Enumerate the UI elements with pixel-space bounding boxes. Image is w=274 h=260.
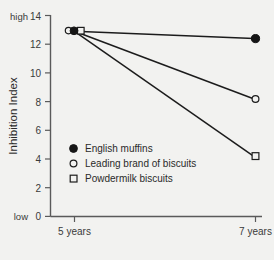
y-tick-label-4: 4: [35, 154, 41, 165]
series-line-powdermilk-biscuits: [75, 31, 254, 156]
datapoint-english-muffins-5-years: [70, 27, 78, 35]
y-tick-label-14: 14: [30, 11, 42, 22]
legend-marker-open-circle-icon: [70, 160, 77, 167]
datapoint-leading-brand-7-years: [252, 96, 259, 103]
legend-label-powdermilk-biscuits: Powdermilk biscuits: [85, 173, 173, 184]
y-tick-label-6: 6: [35, 125, 41, 136]
legend-label-english-muffins: English muffins: [85, 143, 153, 154]
legend-marker-open-square-icon: [70, 175, 77, 182]
y-axis-low-label: low: [14, 211, 28, 222]
datapoint-powdermilk-7-years: [252, 153, 259, 160]
chart-legend: English muffins Leading brand of biscuit…: [70, 143, 197, 184]
datapoint-powdermilk-5-years: [78, 27, 85, 34]
chart-plot-area: 14 12 10 8 6 4 2 0 high low Inhibition I…: [0, 0, 274, 260]
y-tick-label-12: 12: [30, 39, 42, 50]
y-tick-label-10: 10: [30, 68, 42, 79]
x-tick-label-7-years: 7 years: [239, 226, 272, 237]
series-line-english-muffins: [75, 31, 255, 38]
x-tick-label-5-years: 5 years: [58, 226, 91, 237]
y-tick-label-0: 0: [35, 211, 41, 222]
y-axis-ticks: [45, 16, 51, 217]
inhibition-index-line-chart: 14 12 10 8 6 4 2 0 high low Inhibition I…: [0, 0, 274, 260]
y-tick-label-2: 2: [35, 183, 41, 194]
x-axis-ticks: [75, 217, 256, 223]
legend-label-leading-brand-of-biscuits: Leading brand of biscuits: [85, 158, 196, 169]
series-line-leading-brand-of-biscuits: [75, 31, 254, 98]
y-tick-label-8: 8: [35, 97, 41, 108]
y-axis-high-label: high: [10, 11, 28, 22]
datapoint-english-muffins-7-years: [251, 35, 259, 43]
legend-marker-filled-circle-icon: [70, 145, 78, 153]
y-axis-title: Inhibition Index: [7, 77, 19, 155]
